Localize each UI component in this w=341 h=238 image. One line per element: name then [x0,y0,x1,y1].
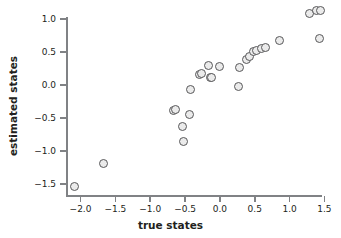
x-tick-label: 1.0 [282,205,296,214]
x-tick-mark [289,196,291,202]
x-tick-label: 0.5 [248,205,262,214]
data-point [185,110,194,119]
data-point [315,34,324,43]
x-tick-mark [149,196,151,202]
x-axis-line [66,195,322,197]
x-tick-label: 0.0 [213,205,227,214]
x-tick-label: −2.0 [70,205,92,214]
x-tick-mark [324,196,326,202]
y-tick-mark [60,183,66,185]
data-point [234,82,243,91]
data-point [275,36,284,45]
data-point [179,137,188,146]
y-axis-line [66,17,68,196]
data-point [186,85,195,94]
x-tick-mark [80,196,82,202]
data-point [197,69,206,78]
data-point [261,43,270,52]
data-point [178,122,187,131]
data-point [215,62,224,71]
y-tick-mark [60,84,66,86]
data-point [235,63,244,72]
x-tick-mark [254,196,256,202]
y-tick-label: 0.0 [42,81,56,90]
plot-area [68,6,330,196]
data-point [171,105,180,114]
y-tick-mark [60,18,66,20]
y-tick-mark [60,51,66,53]
y-tick-mark [60,150,66,152]
data-point [204,61,213,70]
y-tick-mark [60,117,66,119]
data-point [207,73,216,82]
y-axis-label: estimated states [7,41,19,171]
x-tick-label: −1.0 [139,205,161,214]
y-tick-label: −1.0 [34,147,56,156]
y-tick-label: 0.5 [42,48,56,57]
y-tick-label: −0.5 [34,114,56,123]
data-point [99,159,108,168]
data-point-layer [68,6,330,196]
x-tick-mark [115,196,117,202]
x-tick-mark [219,196,221,202]
scatter-chart-figure: 1.00.50.0−0.5−1.0−1.5 −2.0−1.5−1.0−0.50.… [0,0,341,238]
data-point [70,182,79,191]
y-tick-label: 1.0 [42,15,56,24]
x-tick-label: −1.5 [104,205,126,214]
x-tick-mark [184,196,186,202]
y-tick-label: −1.5 [34,180,56,189]
data-point [316,6,325,15]
x-tick-label: −0.5 [174,205,196,214]
x-tick-label: 1.5 [317,205,331,214]
x-axis-label: true states [0,219,341,231]
